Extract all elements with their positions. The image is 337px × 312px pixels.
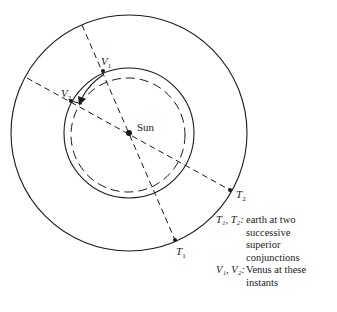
legend-line: conjunctions <box>246 252 326 265</box>
legend-key-v: V₁, V₂: <box>216 264 246 289</box>
label-v2: V2 <box>61 88 71 102</box>
legend-text-v: Venus at these instants <box>246 264 326 289</box>
label-t1: T1 <box>176 246 186 260</box>
label-t2: T2 <box>236 189 246 203</box>
legend-row-t: T₁, T₂: earth at two successive superior… <box>216 214 326 264</box>
legend-line: instants <box>246 277 326 290</box>
point-t2 <box>228 188 232 192</box>
legend-line: earth at two <box>246 214 326 227</box>
venus-motion-arrow <box>82 75 103 98</box>
legend-text-t: earth at two successive superior conjunc… <box>246 214 326 264</box>
legend-line: Venus at these <box>246 264 326 277</box>
legend-line: superior <box>246 239 326 252</box>
legend: T₁, T₂: earth at two successive superior… <box>216 214 326 289</box>
sun-dot <box>126 130 132 136</box>
legend-line: successive <box>246 227 326 240</box>
point-t1 <box>173 238 177 242</box>
legend-key-t: T₁, T₂: <box>216 214 246 264</box>
label-sun: Sun <box>137 122 154 133</box>
legend-row-v: V₁, V₂: Venus at these instants <box>216 264 326 289</box>
label-v1: V1 <box>101 56 111 70</box>
